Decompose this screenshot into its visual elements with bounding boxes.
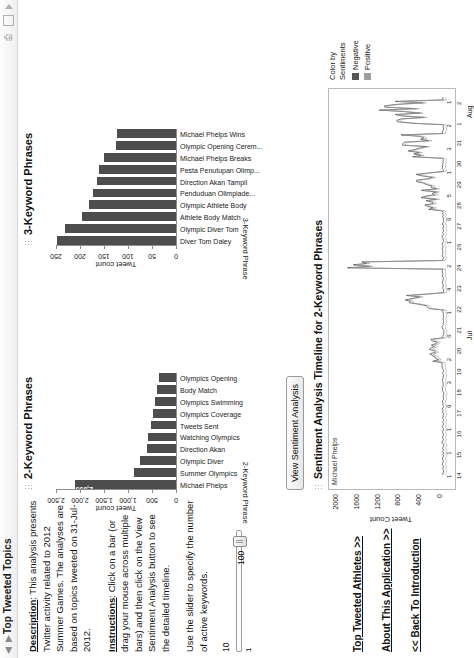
chart-2-keyword-plot[interactable]: 2,095Michael PhelpsSummer OlympicsOlympi… <box>56 373 176 490</box>
x-tick-hour: 4 <box>446 288 452 291</box>
flag-icon[interactable] <box>5 4 13 9</box>
chart-2-keyword-title: 2-Keyword Phrases <box>22 260 34 490</box>
bar[interactable] <box>151 421 176 430</box>
bar[interactable] <box>93 189 176 198</box>
bar[interactable] <box>57 236 176 245</box>
window-titlebar: ◀ ▶ Top Tweeted Topics ⎙ <box>0 0 18 658</box>
y-axis-title: 2-Keyword Phrase <box>241 462 250 524</box>
category-label: Diver Tom Daley <box>180 238 231 245</box>
legend-swatch-negative <box>352 73 359 80</box>
x-tick-date: 26 <box>456 244 462 251</box>
y-tick-mark <box>176 490 177 493</box>
legend-label-negative: Negative <box>351 40 360 70</box>
y-tick-label: 2,000 <box>71 497 89 504</box>
chart-3-keyword-plot[interactable]: Diver Tom DaleyOlympic Diver TomAthlete … <box>56 129 176 246</box>
x-tick-hour: 2 <box>446 264 452 267</box>
bar[interactable] <box>148 433 176 442</box>
category-label: Athlete Body Match <box>180 214 241 221</box>
bar[interactable] <box>155 397 176 406</box>
x-tick-hour: 3 <box>446 147 452 150</box>
drag-handle-icon[interactable] <box>314 483 323 490</box>
bar[interactable] <box>134 468 176 477</box>
y-tick-mark <box>128 246 129 249</box>
category-label: Penduduan Olimpiade... <box>180 190 255 197</box>
bar[interactable] <box>140 456 176 465</box>
bar[interactable] <box>157 385 176 394</box>
category-label: Summer Olympics <box>180 470 237 477</box>
category-label: Direction Akan <box>180 446 225 453</box>
application-page: ◀ ▶ Top Tweeted Topics ⎙ Description: Th… <box>0 0 474 658</box>
category-label: Michael Phelps <box>180 482 227 489</box>
view-sentiment-analysis-button[interactable]: View Sentiment Analysis <box>286 376 304 490</box>
x-tick-hour: 6 <box>446 218 452 221</box>
bar[interactable] <box>117 129 176 138</box>
x-tick-hour: 1 <box>446 101 452 104</box>
x-tick-date: 17 <box>456 410 462 417</box>
category-label: Olympics Coverage <box>180 411 241 418</box>
drag-handle-icon[interactable] <box>24 483 33 490</box>
sentiment-timeline-panel: Sentiment Analysis Timeline for 2-Keywor… <box>312 8 464 490</box>
drag-handle-icon[interactable] <box>24 239 33 246</box>
x-tick-hour: 6 <box>446 334 452 337</box>
y-axis-title: Tweet Count <box>370 515 412 524</box>
slider-scale: 1 <box>244 530 253 652</box>
bar[interactable] <box>89 200 176 209</box>
bar[interactable] <box>147 444 176 453</box>
right-arrow-icon[interactable]: ▶ <box>2 635 14 642</box>
bar[interactable] <box>153 409 176 418</box>
x-tick-hour: 1 <box>446 311 452 314</box>
month-label-jul: Jul <box>466 331 473 340</box>
slider-track[interactable]: 100 <box>236 530 242 652</box>
slider-handle[interactable] <box>233 536 247 547</box>
category-label: Olympics Swimming <box>180 399 243 406</box>
legend-item-negative[interactable]: Negative <box>351 14 360 80</box>
x-tick-hour: 5 <box>446 194 452 197</box>
bar[interactable] <box>65 224 176 233</box>
instructions-paragraph: Instructions: Click on a bar (or drag yo… <box>105 500 173 652</box>
category-label: Olympic Diver <box>180 458 224 465</box>
bar[interactable] <box>104 153 176 162</box>
page-title: Top Tweeted Topics <box>2 538 13 634</box>
legend-title-line1: Color by <box>328 14 338 80</box>
x-axis-title: Tweet count <box>96 504 136 513</box>
bar[interactable] <box>116 141 176 150</box>
x-tick-hour: 2 <box>446 358 452 361</box>
bar[interactable] <box>99 165 176 174</box>
bar[interactable] <box>97 177 176 186</box>
slider-current-value: 10 <box>221 643 231 652</box>
y-tick-mark <box>80 246 81 249</box>
x-tick-hour: 1 <box>446 475 452 478</box>
y-tick-label: 50 <box>148 253 156 260</box>
y-tick-mark <box>104 246 105 249</box>
y-tick-label: 0 <box>174 497 178 504</box>
screenshot-frame: ◀ ▶ Top Tweeted Topics ⎙ Description: Th… <box>0 0 474 658</box>
y-tick-label: 1,000 <box>119 497 137 504</box>
x-tick-date: 2 <box>456 102 462 105</box>
x-tick-date: 28 <box>456 202 462 209</box>
x-tick-hour: 1 <box>446 428 452 431</box>
y-tick-label: 2000 <box>332 494 339 516</box>
legend-title-line2: Sentiments <box>338 14 348 80</box>
category-label: Watching Olympics <box>180 434 240 441</box>
sentiment-positive-line <box>351 97 447 475</box>
x-tick-hour: 1 <box>446 171 452 174</box>
x-tick-date: 21 <box>456 327 462 334</box>
bar[interactable] <box>82 212 176 221</box>
y-tick-label: 100 <box>122 253 134 260</box>
sentiment-timeline-plot[interactable]: Michael Phelps <box>328 88 456 490</box>
y-tick-label: 150 <box>98 253 110 260</box>
y-tick-mark <box>176 246 177 249</box>
series-label: Michael Phelps <box>331 438 338 485</box>
legend-item-positive[interactable]: Positive <box>363 14 372 80</box>
chart-3-keyword-phrases[interactable]: 3-Keyword Phrases Diver Tom DaleyOlympic… <box>22 10 272 246</box>
x-tick-date: 18 <box>456 389 462 396</box>
left-arrow-icon[interactable]: ◀ <box>2 647 14 654</box>
legend-label-positive: Positive <box>363 44 372 70</box>
window-icon[interactable] <box>3 15 14 26</box>
y-tick-mark <box>80 490 81 493</box>
bar[interactable] <box>159 373 176 382</box>
print-icon[interactable]: ⎙ <box>4 32 13 41</box>
nav-controls[interactable]: ◀ ▶ <box>2 635 14 654</box>
category-label: Michael Phelps Wins <box>180 131 245 138</box>
chart-2-keyword-phrases[interactable]: 2-Keyword Phrases 2,095Michael PhelpsSum… <box>22 260 272 490</box>
